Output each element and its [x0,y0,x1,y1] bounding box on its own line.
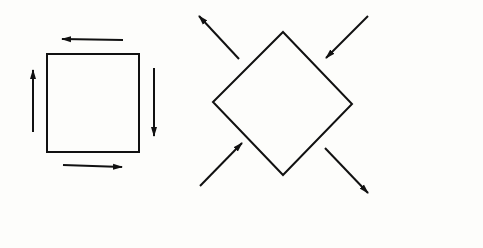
square [47,54,139,152]
arrow-bottom-right-outward [325,148,368,193]
figure-square-shear [33,39,154,167]
arrow-top-left-outward [199,16,239,59]
arrow-top-left [62,39,123,40]
arrow-bottom-right [63,165,122,167]
figure-diamond-principal [199,16,368,193]
diagram-canvas [0,0,483,248]
arrow-bottom-left-inward [200,143,242,186]
arrow-top-right-inward [326,16,368,58]
